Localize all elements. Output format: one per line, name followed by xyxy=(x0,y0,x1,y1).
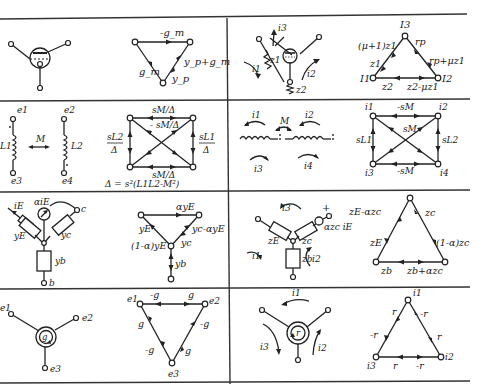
cell-r4c1: e1 e2 e3 g e1 e2 e3 -g g g -g -g g xyxy=(0,289,220,379)
cell-r2c2: i1 i2 i3 i4 M xyxy=(240,102,459,178)
label-right-r: r xyxy=(437,331,443,342)
label-yb: yb xyxy=(54,256,66,266)
label-z1: z1 xyxy=(369,58,381,69)
label-rp-plus-mu-z1: rp+μz1 xyxy=(429,55,465,66)
transistor-admittance-model: iE αiE c b yE yc yb xyxy=(8,197,86,288)
transistor-impedance-model: i3 i1 i2 zE zc zb + αzc iE xyxy=(247,202,353,280)
label-e1: e1 xyxy=(0,303,11,313)
label-left-g: g xyxy=(138,318,144,329)
label-i2: i2 xyxy=(318,343,327,353)
label-e3: e3 xyxy=(11,176,22,186)
label-alpha-iE: αiE xyxy=(34,197,50,207)
label-c: c xyxy=(81,204,86,214)
node-i3: i3 xyxy=(365,168,374,178)
label-gm: g_m xyxy=(139,66,160,78)
label-one-minus-alpha-zc: (1-α)zc xyxy=(436,237,470,248)
flow-graph: i1 i2 i3 i4 -sM sM -sM sL1 sL2 xyxy=(356,102,459,178)
label-bottom-r: r xyxy=(393,360,399,371)
cell-r3c1: iE αiE c b yE yc yb αyE yE (1-α)yE xyxy=(8,197,225,288)
coupled-inductors-mesh: i1 i2 i3 i4 M xyxy=(240,110,334,174)
label-i3: i3 xyxy=(254,164,263,174)
label-g: g xyxy=(42,332,48,342)
label-yE: yE xyxy=(138,223,151,234)
label-center-sM-delta: sM/Δ xyxy=(156,120,179,130)
label-r: r xyxy=(296,328,301,338)
node-i1: i1 xyxy=(365,102,374,112)
label-i1: i1 xyxy=(292,288,301,298)
label-i3: i3 xyxy=(278,23,287,33)
label-zE-minus-alpha-zc: zE-αzc xyxy=(348,206,382,217)
gyrator-conductance: e1 e2 e3 g xyxy=(0,303,93,374)
node-e1: e1 xyxy=(127,294,138,304)
label-top-g: g xyxy=(188,289,194,300)
flow-graph: zE-αzc zE zc (1-α)zc zb zb+αzc xyxy=(348,195,470,276)
label-top-minus-sM: -sM xyxy=(397,102,415,112)
label-yc: yc xyxy=(180,237,192,248)
label-yc-minus-alpha-yE: yc-αyE xyxy=(191,223,225,234)
delta-formula: Δ = s²(L1L2-M²) xyxy=(104,179,180,189)
flow-graph: e1 e2 e3 -g g g -g -g g xyxy=(127,289,220,379)
label-left-minus-g: -g xyxy=(145,344,154,355)
label-b: b xyxy=(49,278,55,288)
label-i4: i4 xyxy=(304,161,313,171)
label-i1: i1 xyxy=(252,110,261,120)
label-delta-right: Δ xyxy=(202,145,210,155)
label-i1: i1 xyxy=(252,251,261,261)
label-yE: yE xyxy=(13,231,26,241)
cell-r2c1: e1 e2 e3 e4 L1 L2 M xyxy=(0,105,215,189)
node-I1: I1 xyxy=(359,73,370,84)
label-i2: i2 xyxy=(307,69,316,79)
label-center-minus: - xyxy=(150,120,153,130)
label-zE: zE xyxy=(369,237,382,248)
label-right-minus-r: -r xyxy=(420,308,429,319)
label-minus-gm: -g_m xyxy=(160,27,184,39)
label-e3: e3 xyxy=(50,364,61,374)
label-top-minus-g: -g xyxy=(150,289,159,300)
label-sL2: sL2 xyxy=(442,135,459,145)
label-plus: + xyxy=(322,202,330,213)
node-i2: i2 xyxy=(445,352,454,362)
label-bottom-minus-r: -r xyxy=(416,360,425,371)
label-M: M xyxy=(35,134,46,144)
label-iE: iE xyxy=(14,201,24,211)
label-left-minus-r: -r xyxy=(370,329,379,340)
label-e2: e2 xyxy=(64,105,75,115)
triode-with-impedances: i3 z1 i1 i2 z2 xyxy=(244,23,322,95)
label-delta-left: Δ xyxy=(110,145,118,155)
label-right-g: g xyxy=(185,345,191,356)
label-alpha-zc-iE: αzc iE xyxy=(324,222,353,232)
table-grid xyxy=(0,14,470,384)
flow-graph: i1 i2 i3 r -r -r r r -r xyxy=(367,288,454,371)
label-yp-plus-gm: y_p+g_m xyxy=(183,56,230,68)
cell-r1c1: -g_m y_p+g_m y_p g_m xyxy=(9,27,231,91)
label-alpha-yE: αyE xyxy=(176,201,195,212)
node-i1: i1 xyxy=(413,288,422,298)
label-e4: e4 xyxy=(62,176,73,186)
label-zb: zb xyxy=(301,254,313,264)
node-i4: i4 xyxy=(440,168,449,178)
coupled-inductors: e1 e2 e3 e4 L1 L2 M xyxy=(0,105,83,186)
label-yp: y_p xyxy=(171,73,190,85)
flow-graph: sM/Δ - sM/Δ sM/Δ sL2 Δ sL1 Δ Δ = s²(L1L2… xyxy=(104,105,215,189)
node-e3: e3 xyxy=(168,369,179,379)
label-one-minus-alpha-yE: (1-α)yE xyxy=(131,240,166,251)
label-sL1: sL1 xyxy=(199,132,215,142)
label-i3: i3 xyxy=(260,342,269,352)
label-i1: i1 xyxy=(252,64,261,74)
signal-flow-equivalents-table: -g_m y_p+g_m y_p g_m i3 xyxy=(0,0,483,389)
label-zb: zb xyxy=(380,265,392,276)
node-I2: I2 xyxy=(441,73,452,84)
label-zb-plus-alpha-zc: zb+αzc xyxy=(406,265,443,276)
label-sL2: sL2 xyxy=(107,132,124,142)
label-i2: i2 xyxy=(305,110,314,120)
label-yb: yb xyxy=(174,258,186,269)
label-M: M xyxy=(279,116,290,126)
label-left-r: r xyxy=(392,306,398,317)
label-z2: z2 xyxy=(381,81,393,92)
label-z2-minus-mu-z1: z2-μz1 xyxy=(406,81,438,92)
label-zc: zc xyxy=(424,207,436,218)
label-z2: z2 xyxy=(295,85,307,95)
label-yc: yc xyxy=(60,230,71,240)
label-right-minus-g: -g xyxy=(200,318,209,329)
label-rp: rp xyxy=(415,36,426,47)
